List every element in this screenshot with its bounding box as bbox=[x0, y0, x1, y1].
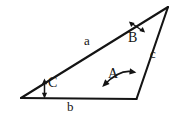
angle-label-c: C bbox=[48, 76, 57, 90]
triangle-figure bbox=[0, 0, 175, 116]
angle-label-b: B bbox=[128, 31, 137, 45]
angle-label-a: A bbox=[108, 67, 118, 81]
side-label-a: a bbox=[84, 34, 90, 47]
side-label-b: b bbox=[67, 100, 74, 113]
triangle-diagram: a b c A B C bbox=[0, 0, 175, 116]
side-a-line bbox=[21, 7, 168, 98]
side-label-c: c bbox=[150, 47, 156, 60]
side-b-line bbox=[21, 98, 137, 99]
